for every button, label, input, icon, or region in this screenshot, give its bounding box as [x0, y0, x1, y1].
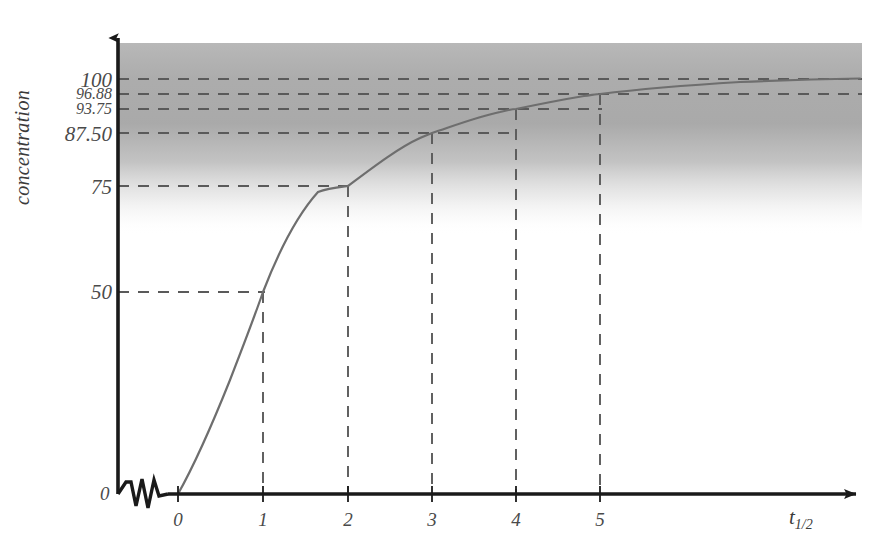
- y-origin-label: 0: [100, 483, 110, 505]
- y-tick-label-93-75: 93.75: [76, 100, 112, 118]
- x-tick-label-1: 1: [253, 509, 273, 531]
- y-tick-label-87-50: 87.50: [65, 122, 112, 147]
- x-tick-label-5: 5: [590, 509, 610, 531]
- x-axis-title: t1/2: [789, 505, 813, 533]
- x-tick-label-3: 3: [422, 509, 442, 531]
- y-axis-title: concentration: [11, 68, 34, 228]
- y-tick-label-75: 75: [91, 175, 112, 200]
- y-tick-label-50: 50: [91, 280, 112, 305]
- chart-plot-area: [0, 0, 886, 557]
- x-axis-title-subscript: 1/2: [795, 517, 813, 532]
- chart-figure: concentration 100 96.88 93.75 87.50 75 5…: [0, 0, 886, 557]
- plateau-shaded-band: [118, 43, 862, 235]
- axis-break-zigzag-icon: [118, 479, 168, 508]
- x-tick-label-4: 4: [506, 509, 526, 531]
- x-tick-label-0: 0: [168, 509, 188, 531]
- x-tick-label-2: 2: [338, 509, 358, 531]
